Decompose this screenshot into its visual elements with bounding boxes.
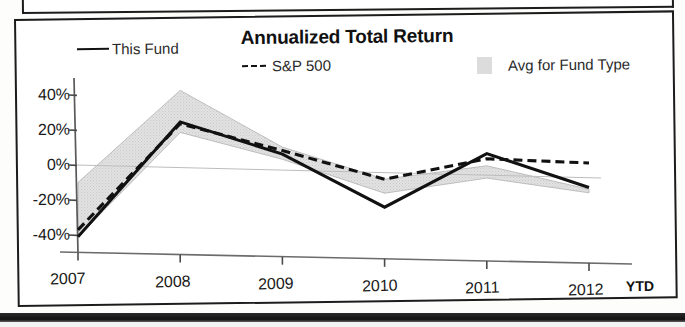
chart-content: Annualized Total Return This Fund S&P 50… xyxy=(0,0,685,327)
page-edge-shadow xyxy=(0,313,685,327)
x-axis xyxy=(60,252,632,264)
scanned-page: Annualized Total Return This Fund S&P 50… xyxy=(0,0,685,327)
chart-plot-area xyxy=(0,0,685,327)
